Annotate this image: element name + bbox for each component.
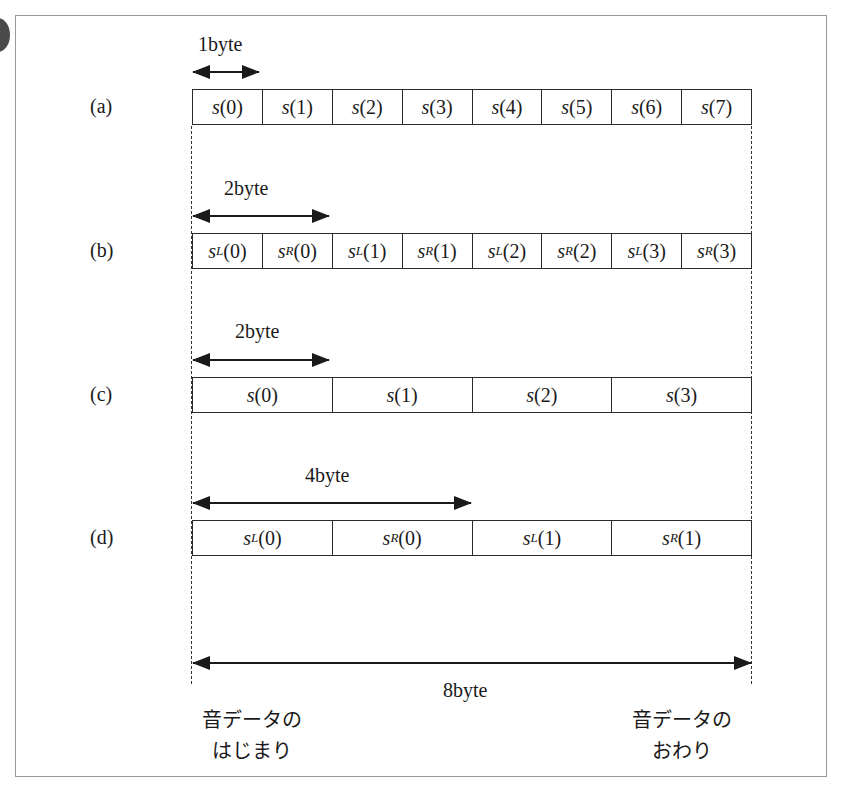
channel-subscript: R [286, 243, 294, 259]
sample-cell: s(4) [473, 90, 543, 124]
sample-index: (3) [713, 240, 736, 263]
sample-cell: s(0) [193, 378, 333, 412]
sample-symbol: s [208, 240, 216, 263]
sample-cell: sL(0) [193, 521, 333, 555]
size-label-b: 2byte [224, 177, 268, 200]
sample-index: (2) [573, 240, 596, 263]
sample-index: (3) [429, 96, 452, 119]
sample-symbol: s [488, 240, 496, 263]
channel-subscript: R [425, 243, 433, 259]
figure-badge [0, 18, 10, 52]
size-arrow-d [193, 502, 471, 504]
row-label-b: (b) [90, 239, 130, 262]
sample-symbol: s [526, 384, 534, 407]
sample-index: (0) [398, 527, 421, 550]
total-size-arrow [193, 662, 751, 664]
sample-symbol: s [491, 96, 499, 119]
sample-cell: sL(3) [612, 234, 682, 268]
sample-symbol: s [387, 384, 395, 407]
byte-row-a: s(0)s(1)s(2)s(3)s(4)s(5)s(6)s(7) [192, 89, 752, 125]
sample-cell: s(2) [333, 90, 403, 124]
sample-symbol: s [561, 96, 569, 119]
channel-subscript: R [390, 530, 398, 546]
sample-index: (0) [258, 527, 281, 550]
sample-index: (5) [569, 96, 592, 119]
sample-index: (4) [499, 96, 522, 119]
channel-subscript: L [530, 530, 537, 546]
channel-subscript: L [251, 530, 258, 546]
channel-subscript: R [705, 243, 713, 259]
sample-symbol: s [352, 96, 360, 119]
channel-subscript: L [216, 243, 223, 259]
sample-cell: sR(1) [612, 521, 751, 555]
sample-index: (2) [503, 240, 526, 263]
size-label-a: 1byte [198, 33, 242, 56]
byte-row-c: s(0)s(1)s(2)s(3) [192, 377, 752, 413]
sample-symbol: s [282, 96, 290, 119]
sample-cell: s(3) [612, 378, 751, 412]
sample-cell: s(6) [612, 90, 682, 124]
sample-cell: s(2) [473, 378, 613, 412]
sample-symbol: s [666, 384, 674, 407]
row-label-a: (a) [90, 95, 130, 118]
sample-index: (1) [363, 240, 386, 263]
data-end-label-line2: おわり [626, 736, 738, 767]
sample-index: (1) [538, 527, 561, 550]
byte-row-d: sL(0)sR(0)sL(1)sR(1) [192, 520, 752, 556]
channel-subscript: L [356, 243, 363, 259]
sample-index: (2) [359, 96, 382, 119]
size-arrow-a [193, 71, 259, 73]
sample-index: (6) [639, 96, 662, 119]
sample-index: (1) [433, 240, 456, 263]
data-start-label-line1: 音データの [196, 705, 308, 736]
sample-index: (0) [220, 96, 243, 119]
size-label-c: 2byte [235, 320, 279, 343]
channel-subscript: R [565, 243, 573, 259]
sample-cell: sL(1) [473, 521, 613, 555]
size-label-d: 4byte [305, 464, 349, 487]
size-arrow-b [193, 215, 329, 217]
sample-index: (3) [643, 240, 666, 263]
sample-cell: sR(0) [333, 521, 473, 555]
sample-index: (0) [255, 384, 278, 407]
data-start-label-line2: はじまり [196, 736, 308, 767]
sample-cell: s(1) [333, 378, 473, 412]
total-size-label: 8byte [443, 679, 487, 702]
sample-cell: sL(0) [193, 234, 263, 268]
sample-symbol: s [278, 240, 286, 263]
sample-index: (0) [294, 240, 317, 263]
sample-cell: sR(1) [403, 234, 473, 268]
channel-subscript: L [635, 243, 642, 259]
sample-index: (0) [223, 240, 246, 263]
sample-cell: sL(1) [333, 234, 403, 268]
sample-cell: s(7) [682, 90, 751, 124]
sample-index: (1) [394, 384, 417, 407]
sample-symbol: s [247, 384, 255, 407]
data-end-label-line1: 音データの [626, 705, 738, 736]
sample-cell: sR(3) [682, 234, 751, 268]
sample-symbol: s [701, 96, 709, 119]
sample-cell: s(0) [193, 90, 263, 124]
data-end-label: 音データの おわり [626, 705, 738, 767]
sample-index: (2) [534, 384, 557, 407]
data-start-label: 音データの はじまり [196, 705, 308, 767]
byte-row-b: sL(0)sR(0)sL(1)sR(1)sL(2)sR(2)sL(3)sR(3) [192, 233, 752, 269]
sample-index: (7) [709, 96, 732, 119]
sample-symbol: s [212, 96, 220, 119]
sample-cell: s(3) [403, 90, 473, 124]
sample-cell: s(5) [542, 90, 612, 124]
sample-cell: sR(0) [263, 234, 333, 268]
sample-symbol: s [243, 527, 251, 550]
channel-subscript: L [496, 243, 503, 259]
sample-cell: s(1) [263, 90, 333, 124]
sample-cell: sR(2) [542, 234, 612, 268]
size-arrow-c [193, 359, 329, 361]
sample-index: (3) [674, 384, 697, 407]
sample-symbol: s [697, 240, 705, 263]
row-label-d: (d) [90, 526, 130, 549]
sample-symbol: s [631, 96, 639, 119]
sample-symbol: s [557, 240, 565, 263]
sample-index: (1) [290, 96, 313, 119]
sample-symbol: s [422, 96, 430, 119]
sample-cell: sL(2) [473, 234, 543, 268]
